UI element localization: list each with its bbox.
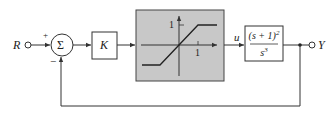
output-label: Y <box>318 39 325 51</box>
numerator-text: (s + 1) <box>249 30 276 41</box>
minus-sign: − <box>50 56 56 67</box>
plus-sign: + <box>43 31 48 40</box>
gain-label: K <box>100 39 108 51</box>
control-signal-label: u <box>234 32 240 43</box>
denominator-exponent: 3 <box>264 46 268 54</box>
output-terminal <box>309 42 315 48</box>
saturation-x-tick-label: 1 <box>195 48 200 58</box>
sigma-symbol: Σ <box>57 39 64 51</box>
plant-numerator: (s + 1)2 <box>245 30 283 41</box>
plant-denominator: s3 <box>245 47 283 58</box>
input-label: R <box>13 39 20 51</box>
input-terminal <box>25 42 31 48</box>
saturation-y-tick-label: 1 <box>169 20 174 30</box>
numerator-exponent: 2 <box>276 29 280 37</box>
